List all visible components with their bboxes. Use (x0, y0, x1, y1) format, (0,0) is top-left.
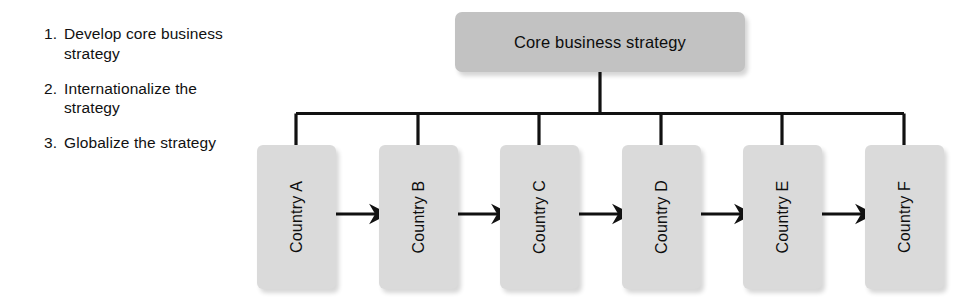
country-label-b: Country B (379, 145, 458, 289)
country-box-f: Country F (865, 145, 944, 289)
country-box-c: Country C (500, 145, 579, 289)
diagram-canvas: 1. Develop core business strategy 2. Int… (0, 0, 970, 301)
list-item: 3. Globalize the strategy (44, 133, 234, 153)
step-number: 1. (44, 24, 64, 44)
list-item: 2. Internationalize the strategy (44, 79, 234, 119)
country-box-e: Country E (743, 145, 822, 289)
list-item: 1. Develop core business strategy (44, 24, 234, 64)
step-text: Globalize the strategy (64, 133, 234, 153)
country-label-c: Country C (500, 145, 579, 289)
core-business-strategy-box: Core business strategy (455, 12, 745, 72)
country-label-d: Country D (622, 145, 701, 289)
country-label-f: Country F (865, 145, 944, 289)
country-box-a: Country A (257, 145, 336, 289)
step-text: Internationalize the strategy (64, 79, 234, 119)
step-number: 2. (44, 79, 64, 99)
country-label-e: Country E (743, 145, 822, 289)
step-text: Develop core business strategy (64, 24, 234, 64)
country-box-b: Country B (379, 145, 458, 289)
country-box-d: Country D (622, 145, 701, 289)
steps-list: 1. Develop core business strategy 2. Int… (44, 24, 234, 168)
step-number: 3. (44, 133, 64, 153)
country-label-a: Country A (257, 145, 336, 289)
core-business-strategy-label: Core business strategy (514, 33, 686, 52)
